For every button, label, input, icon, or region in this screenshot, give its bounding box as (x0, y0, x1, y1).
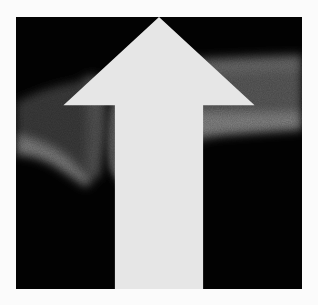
xray-image (16, 17, 302, 289)
arrow-up-icon (16, 17, 302, 289)
